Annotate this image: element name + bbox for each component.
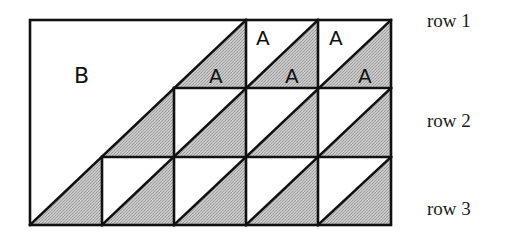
label-b: B (74, 63, 89, 88)
label-a-r1c4-upper: A (256, 26, 270, 50)
row-label-1: row 1 (427, 10, 471, 32)
label-a-r1c3-lower: A (209, 64, 223, 88)
label-a-r1c5-lower: A (358, 64, 372, 88)
row-label-2: row 2 (427, 110, 471, 132)
label-a-r1c5-upper: A (329, 26, 343, 50)
label-a-r1c4-lower: A (285, 64, 299, 88)
row-label-3: row 3 (427, 198, 471, 220)
